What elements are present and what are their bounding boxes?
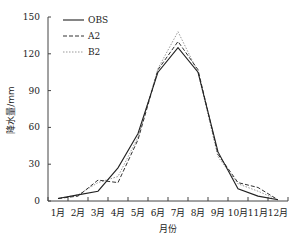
x-tick-label: 2月 [71,208,86,218]
y-tick-label: 120 [23,49,40,59]
x-tick-label: 4月 [111,208,126,218]
y-tick-label: 90 [29,86,41,96]
x-tick-label: 6月 [151,208,166,218]
legend-label-b2: B2 [88,47,100,57]
precipitation-line-chart: 0306090120150 1月2月3月4月5月6月7月8月9月10月11月12… [0,0,304,250]
x-tick-label: 9月 [211,208,226,218]
axes [48,17,288,201]
series-obs-line [58,48,278,200]
x-tick-label: 5月 [131,208,146,218]
legend-label-a2: A2 [87,31,100,41]
y-tick-label: 0 [34,196,40,206]
x-tick-label: 12月 [268,208,288,218]
y-tick-label: 30 [29,159,41,169]
x-axis-title: 月份 [159,223,177,234]
y-axis-title: 降水量/mm [5,86,16,134]
y-tick-label: 60 [29,122,41,132]
x-tick-label: 8月 [191,208,206,218]
x-tick-label: 1月 [51,208,66,218]
y-axis-ticks: 0306090120150 [23,12,51,206]
legend: OBSA2B2 [63,15,108,57]
y-tick-label: 150 [23,12,40,22]
legend-label-obs: OBS [88,15,108,25]
x-tick-label: 7月 [171,208,186,218]
x-axis-ticks: 1月2月3月4月5月6月7月8月9月10月11月12月 [48,197,288,218]
series-a2-line [58,42,278,200]
x-tick-label: 11月 [248,208,268,218]
x-tick-label: 10月 [228,208,248,218]
x-tick-label: 3月 [91,208,106,218]
